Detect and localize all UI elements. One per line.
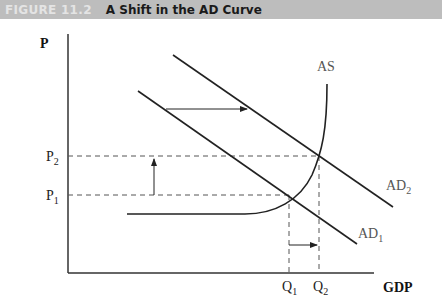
q1-label: Q1: [282, 279, 297, 297]
x-axis-label: GDP: [383, 280, 413, 295]
p1-label: P1: [46, 188, 59, 206]
ad-shift-diagram: P GDP P2 P1 Q1 Q2 AS AD2 AD1: [0, 0, 442, 305]
ad2-curve: [173, 55, 393, 207]
ad1-curve: [138, 91, 357, 244]
p2-label: P2: [46, 149, 59, 167]
ad2-label: AD2: [386, 178, 411, 196]
ad1-label: AD1: [358, 226, 383, 244]
y-axis-label: P: [40, 36, 49, 51]
as-label: AS: [317, 59, 335, 74]
q2-label: Q2: [313, 279, 328, 297]
